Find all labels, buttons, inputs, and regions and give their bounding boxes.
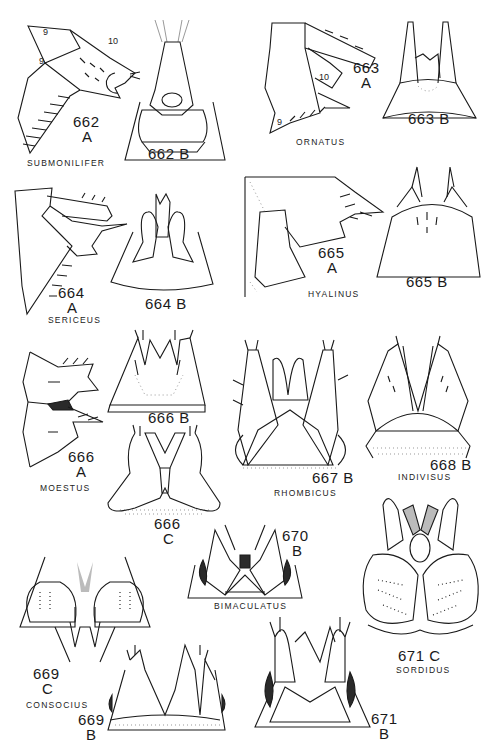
species-name: SERICEUS (48, 315, 101, 325)
figure-669b-lineart (100, 640, 235, 735)
figure-669b-drawing (100, 640, 235, 735)
figure-665b-lineart (372, 172, 487, 287)
figure-663b-drawing (378, 18, 478, 123)
figure-666b-drawing (105, 330, 215, 415)
species-name: BIMACULATUS (214, 601, 287, 611)
figure-label: 663 B (408, 111, 450, 126)
illustration-plate: 9 10 9 662 A SUBMONILIFER 662 B 10 9 663… (0, 0, 496, 743)
figure-view-letter: A (82, 129, 93, 144)
figure-666a-lineart (18, 352, 113, 467)
figure-666a-drawing (18, 352, 113, 467)
figure-number: 671 (371, 711, 398, 726)
figure-label: 667 B (312, 470, 354, 485)
figure-667b-lineart (228, 340, 353, 470)
figure-666c-lineart (105, 428, 225, 518)
figure-number: 670 (282, 528, 309, 543)
figure-number: 663 (353, 60, 380, 75)
segment-label-10: 10 (108, 36, 118, 46)
segment-label-9: 9 (39, 56, 44, 66)
species-name: RHOMBICUS (274, 488, 337, 498)
figure-label: 666 B (148, 410, 190, 425)
figure-667b-drawing (228, 340, 353, 470)
figure-664b-drawing (108, 192, 223, 307)
figure-number: 666 (154, 516, 181, 531)
species-name: MOESTUS (40, 483, 90, 493)
figure-number: 664 (58, 285, 85, 300)
figure-662b-drawing (125, 20, 225, 165)
figure-label: 665 B (406, 274, 448, 289)
figure-label: 664 B (145, 296, 187, 311)
figure-view-letter: C (42, 681, 53, 696)
species-name: INDIVISUS (398, 472, 451, 482)
figure-number: 669 (33, 666, 60, 681)
figure-label: 662 B (148, 146, 190, 161)
segment-label-9: 9 (277, 117, 282, 127)
figure-label: 668 B (430, 457, 472, 472)
figure-view-letter: B (292, 543, 303, 558)
figure-view-letter: A (361, 75, 372, 90)
species-name: SUBMONILIFER (27, 158, 105, 168)
segment-label-10: 10 (319, 72, 329, 82)
figure-665a-drawing (245, 172, 385, 297)
figure-665b-drawing (372, 172, 487, 287)
species-name: SORDIDUS (396, 665, 450, 675)
figure-view-letter: B (379, 726, 390, 741)
species-name: ORNATUS (296, 137, 345, 147)
segment-label-9: 9 (43, 27, 48, 37)
figure-view-letter: A (76, 464, 87, 479)
figure-664b-lineart (108, 192, 223, 307)
figure-668b-drawing (358, 336, 483, 461)
figure-666b-lineart (105, 330, 215, 415)
figure-666c-drawing (105, 428, 225, 518)
figure-671b-drawing (250, 612, 375, 734)
figure-view-letter: C (163, 531, 174, 546)
figure-view-letter: A (67, 300, 78, 315)
figure-view-letter: B (86, 727, 97, 742)
figure-number: 665 (318, 245, 345, 260)
figure-671c-lineart (358, 490, 488, 640)
figure-number: 666 (68, 449, 95, 464)
figure-663b-lineart (378, 18, 478, 123)
figure-665a-lineart (245, 172, 385, 297)
figure-number: 669 (78, 712, 105, 727)
figure-view-letter: A (327, 260, 338, 275)
figure-662b-lineart (125, 20, 225, 165)
species-name: CONSOCIUS (26, 700, 88, 710)
figure-668b-lineart (358, 336, 483, 461)
figure-number: 662 (73, 114, 100, 129)
figure-671b-lineart (250, 612, 375, 734)
species-name: HYALINUS (308, 289, 359, 299)
figure-671c-drawing (358, 490, 488, 640)
figure-label: 671 C (398, 648, 441, 663)
